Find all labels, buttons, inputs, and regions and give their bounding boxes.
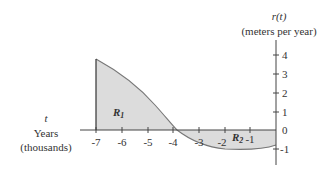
svg-text:-7: -7	[91, 136, 101, 148]
svg-text:1: 1	[282, 106, 288, 118]
svg-text:-1: -1	[245, 133, 254, 145]
svg-text:-4: -4	[168, 136, 178, 148]
svg-text:4: 4	[282, 49, 288, 61]
y-axis-variable: r(t)	[272, 10, 287, 23]
svg-text:-1: -1	[280, 143, 289, 155]
x-axis-label-line2: (thousands)	[20, 141, 72, 154]
x-axis-label-line1: Years	[34, 127, 59, 139]
chart: -7 -6 -5 -4 -3 -2 -1 4 3 2 1 0 -1 r(t) (…	[0, 0, 324, 172]
svg-text:-6: -6	[117, 136, 127, 148]
svg-text:-3: -3	[194, 136, 204, 148]
svg-text:2: 2	[282, 87, 288, 99]
svg-text:-5: -5	[143, 136, 153, 148]
svg-text:-2: -2	[217, 136, 226, 148]
svg-text:0: 0	[282, 124, 288, 136]
svg-text:3: 3	[282, 68, 288, 80]
region-r1-fill	[96, 59, 177, 130]
y-tick-labels: 4 3 2 1 0 -1	[280, 49, 289, 155]
x-axis-variable: t	[44, 112, 48, 124]
y-axis-units: (meters per year)	[241, 25, 316, 38]
